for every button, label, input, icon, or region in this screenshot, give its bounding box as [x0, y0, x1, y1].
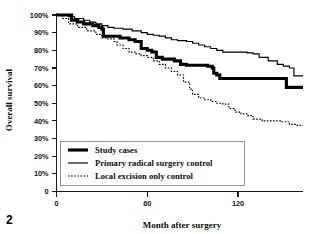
y-tick-label: 90% — [34, 28, 49, 37]
y-tick-label: 80% — [34, 46, 49, 55]
y-tick-label: 60% — [34, 81, 49, 90]
legend-label-study-cases: Study cases — [95, 145, 138, 155]
y-tick-label: 40% — [34, 117, 49, 126]
x-tick-label: 60 — [143, 199, 151, 208]
y-tick-label: 10% — [34, 169, 49, 178]
chart-legend: Study cases Primary radical surgery cont… — [61, 142, 245, 186]
y-tick-label: 50% — [34, 99, 49, 108]
y-tick-label: 20% — [34, 152, 49, 161]
legend-label-local-excision-only-control: Local excision only control — [95, 171, 194, 181]
y-axis-title: Overall survival — [4, 68, 14, 131]
survival-chart: 010%20%30%40%50%60%70%80%90%100% 060120 … — [0, 0, 309, 234]
y-tick-label: 70% — [34, 64, 49, 73]
x-tick-label: 0 — [54, 199, 58, 208]
y-tick-label: 0 — [44, 187, 48, 196]
figure-container: 010%20%30%40%50%60%70%80%90%100% 060120 … — [0, 0, 309, 234]
legend-label-primary-radical-surgery-control: Primary radical surgery control — [95, 158, 213, 168]
x-axis-title: Month after surgery — [143, 220, 222, 230]
y-tick-label: 100% — [30, 11, 49, 20]
figure-number: 2 — [6, 213, 13, 227]
y-tick-label: 30% — [34, 134, 49, 143]
x-tick-label: 120 — [232, 199, 244, 208]
